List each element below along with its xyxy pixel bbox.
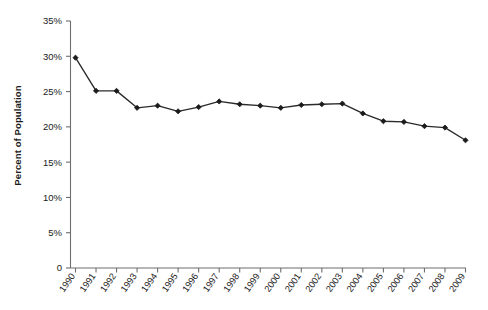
x-tick-label: 1994 bbox=[139, 271, 159, 293]
x-axis-ticks: 1990199119921993199419951996199719981999… bbox=[57, 268, 467, 294]
x-tick-label: 2006 bbox=[386, 271, 406, 293]
data-line-percent-of-population bbox=[76, 58, 466, 141]
data-point bbox=[196, 104, 201, 109]
x-tick-label: 2008 bbox=[427, 271, 447, 293]
x-tick-label: 2003 bbox=[324, 271, 344, 293]
y-tick-label: 5% bbox=[48, 227, 62, 238]
x-tick-label: 2007 bbox=[406, 271, 426, 293]
x-tick-label: 1998 bbox=[221, 271, 241, 293]
data-point bbox=[237, 102, 242, 107]
y-tick-label: 10% bbox=[43, 192, 63, 203]
y-tick-label: 15% bbox=[43, 157, 63, 168]
x-tick-label: 1999 bbox=[242, 271, 262, 293]
x-tick-label: 1991 bbox=[78, 271, 98, 293]
x-tick-label: 1993 bbox=[119, 271, 139, 293]
chart-canvas: 05%10%15%20%25%30%35% 199019911992199319… bbox=[0, 0, 488, 310]
x-tick-label: 1996 bbox=[180, 271, 200, 293]
x-tick-label: 2001 bbox=[283, 271, 303, 293]
y-tick-label: 0 bbox=[57, 262, 62, 273]
data-point bbox=[401, 119, 406, 124]
data-point bbox=[278, 105, 283, 110]
x-tick-label: 2004 bbox=[345, 271, 365, 293]
x-tick-label: 1997 bbox=[201, 271, 221, 293]
data-markers bbox=[73, 55, 468, 143]
data-point bbox=[258, 103, 263, 108]
y-tick-label: 35% bbox=[43, 15, 63, 26]
x-tick-label: 2000 bbox=[262, 271, 282, 293]
data-point bbox=[422, 124, 427, 129]
x-tick-label: 1990 bbox=[57, 271, 77, 293]
y-tick-label: 30% bbox=[43, 51, 63, 62]
data-point bbox=[176, 109, 181, 114]
x-tick-label: 1995 bbox=[160, 271, 180, 293]
y-tick-label: 20% bbox=[43, 121, 63, 132]
data-point bbox=[381, 119, 386, 124]
y-axis-ticks: 05%10%15%20%25%30%35% bbox=[43, 15, 71, 273]
data-point bbox=[319, 102, 324, 107]
x-tick-label: 1992 bbox=[98, 271, 118, 293]
data-point bbox=[155, 103, 160, 108]
x-tick-label: 2005 bbox=[365, 271, 385, 293]
y-tick-label: 25% bbox=[43, 86, 63, 97]
line-chart: Percent of Population 05%10%15%20%25%30%… bbox=[0, 0, 488, 310]
data-point bbox=[340, 101, 345, 106]
x-tick-label: 2002 bbox=[304, 271, 324, 293]
data-point bbox=[299, 102, 304, 107]
data-point bbox=[360, 111, 365, 116]
x-tick-label: 2009 bbox=[447, 271, 467, 293]
data-point bbox=[217, 99, 222, 104]
